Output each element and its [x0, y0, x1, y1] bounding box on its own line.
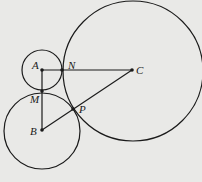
- label-n: N: [68, 60, 75, 71]
- point-m: [40, 89, 44, 93]
- label-a: A: [32, 60, 39, 71]
- label-c: C: [136, 65, 143, 76]
- label-b: B: [30, 126, 37, 137]
- point-c: [130, 68, 134, 72]
- label-p: P: [79, 104, 86, 115]
- point-n: [60, 68, 64, 72]
- geometry-figure: [0, 0, 202, 182]
- point-b: [40, 128, 44, 132]
- segment-bc: [42, 70, 132, 130]
- point-p: [71, 107, 75, 111]
- label-m: M: [30, 94, 39, 105]
- diagram-canvas: A N C M B P: [0, 0, 202, 182]
- point-a: [40, 68, 44, 72]
